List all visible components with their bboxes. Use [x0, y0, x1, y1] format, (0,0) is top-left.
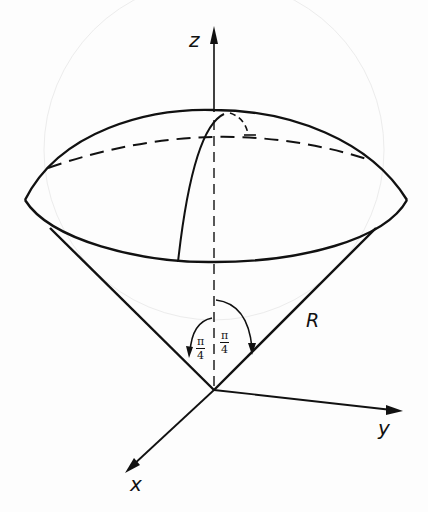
z-axis-arrow-icon	[210, 26, 218, 44]
meridian-arc	[178, 114, 224, 262]
angle-right-numerator: π	[220, 330, 229, 343]
cone-edge-left	[50, 228, 214, 390]
angle-label-right: π 4	[220, 330, 229, 355]
angle-arc-left-arrow-icon	[186, 346, 193, 358]
angle-label-left: π 4	[196, 336, 205, 361]
cap-dome-outline	[25, 110, 407, 200]
diagram-canvas: z y x R π 4 π 4	[0, 0, 428, 512]
right-angle-arc	[230, 113, 248, 134]
y-axis-label: y	[378, 418, 390, 438]
angle-left-numerator: π	[196, 336, 205, 349]
x-axis	[132, 390, 214, 466]
angle-left-denominator: 4	[196, 349, 205, 361]
x-axis-label: x	[130, 474, 142, 494]
cone-figure	[0, 0, 428, 512]
y-axis-arrow-icon	[386, 405, 403, 415]
radius-label: R	[306, 311, 319, 330]
cap-rim-back	[48, 137, 370, 168]
y-axis	[214, 390, 392, 410]
z-axis-label: z	[189, 30, 200, 50]
angle-right-denominator: 4	[220, 343, 229, 355]
cone-edge-right	[214, 228, 376, 390]
